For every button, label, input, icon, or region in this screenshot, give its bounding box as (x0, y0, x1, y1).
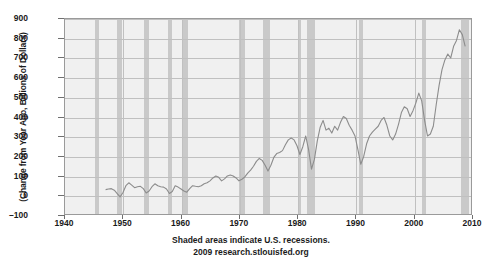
x-tick-mark (472, 215, 473, 219)
x-tick-mark (122, 215, 123, 219)
x-tick-label: 1950 (113, 218, 132, 228)
y-tick-label: 600 (14, 72, 28, 82)
x-tick-label: 1980 (288, 218, 307, 228)
x-tick-label: 1940 (55, 218, 74, 228)
source-note: 2009 research.stlouisfed.org (0, 247, 502, 257)
y-tick-label: 0 (23, 190, 28, 200)
data-line (106, 30, 466, 197)
x-tick-label: 2000 (404, 218, 423, 228)
x-tick-label: 2010 (463, 218, 482, 228)
y-tick-mark (58, 97, 64, 98)
x-tick-mark (297, 215, 298, 219)
y-tick-mark (58, 195, 64, 196)
y-tick-mark (58, 57, 64, 58)
series-line (65, 19, 471, 214)
y-tick-label: 700 (14, 52, 28, 62)
recession-note: Shaded areas indicate U.S. recessions. (0, 235, 502, 245)
y-tick-label: 300 (14, 131, 28, 141)
x-tick-mark (181, 215, 182, 219)
x-tick-label: 1960 (171, 218, 190, 228)
fred-chart: (Change from Year Ago, Billions of Dolla… (0, 0, 502, 267)
x-tick-mark (414, 215, 415, 219)
x-tick-label: 1990 (346, 218, 365, 228)
y-tick-mark (58, 77, 64, 78)
y-tick-label: –100 (9, 210, 28, 220)
y-tick-label: 200 (14, 151, 28, 161)
y-tick-label: 500 (14, 92, 28, 102)
x-tick-label: 1970 (229, 218, 248, 228)
y-tick-label: 100 (14, 171, 28, 181)
y-tick-label: 800 (14, 33, 28, 43)
x-tick-mark (64, 215, 65, 219)
x-tick-mark (355, 215, 356, 219)
y-tick-mark (58, 176, 64, 177)
y-tick-mark (58, 38, 64, 39)
y-tick-mark (58, 156, 64, 157)
x-tick-mark (239, 215, 240, 219)
y-tick-mark (58, 136, 64, 137)
y-tick-label: 900 (14, 13, 28, 23)
y-tick-label: 400 (14, 112, 28, 122)
y-tick-mark (58, 18, 64, 19)
plot-area (64, 18, 472, 215)
y-tick-mark (58, 117, 64, 118)
